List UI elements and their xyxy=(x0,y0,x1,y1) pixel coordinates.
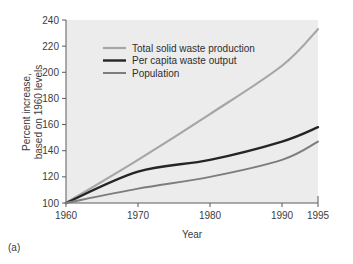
y-tick-label: 200 xyxy=(42,67,59,78)
y-tick-label: 240 xyxy=(42,15,59,26)
y-tick-label: 100 xyxy=(42,198,59,209)
y-tick-label: 220 xyxy=(42,41,59,52)
x-axis-title: Year xyxy=(182,229,203,240)
y-axis-title-line1: Percent increase, xyxy=(21,73,32,151)
x-tick-label: 1960 xyxy=(55,210,78,221)
x-tick-label: 1980 xyxy=(199,210,222,221)
x-tick-label: 1990 xyxy=(271,210,294,221)
y-tick-label: 140 xyxy=(42,145,59,156)
legend-label: Per capita waste output xyxy=(132,55,237,66)
y-tick-label: 180 xyxy=(42,93,59,104)
legend-label: Population xyxy=(132,68,179,79)
x-axis-ticks xyxy=(66,203,318,207)
y-axis-tick-labels: 100120140160180200220240 xyxy=(42,15,59,209)
y-axis-ticks xyxy=(62,20,66,203)
x-tick-label: 1995 xyxy=(307,210,330,221)
legend-label: Total solid waste production xyxy=(132,43,255,54)
y-axis-title-line2: based on 1960 levels xyxy=(33,65,44,160)
x-axis-tick-labels: 19601970198019901995 xyxy=(55,210,330,221)
y-tick-label: 120 xyxy=(42,171,59,182)
figure-caption: (a) xyxy=(8,242,20,253)
x-tick-label: 1970 xyxy=(127,210,150,221)
y-tick-label: 160 xyxy=(42,119,59,130)
line-chart: 100120140160180200220240 196019701980199… xyxy=(0,0,353,264)
figure-panel: 100120140160180200220240 196019701980199… xyxy=(0,0,353,264)
